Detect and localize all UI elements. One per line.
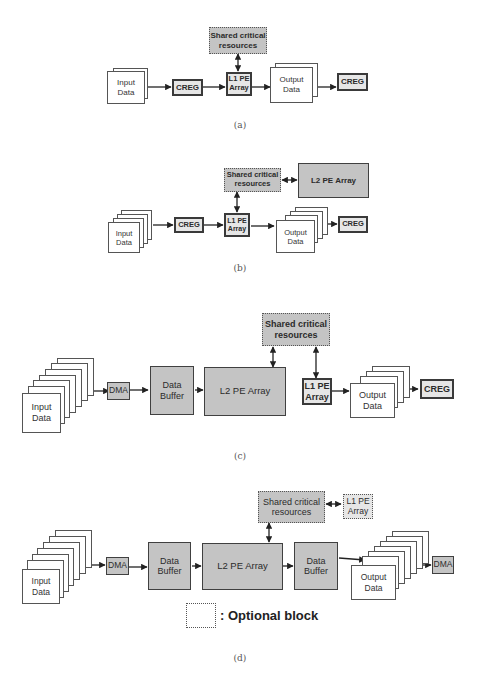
creg-output-block: CREG bbox=[337, 73, 368, 91]
dma-block: DMA bbox=[107, 382, 130, 400]
optional-block-legend-label: : Optional block bbox=[220, 608, 318, 623]
data-buffer-output-block: Data Buffer bbox=[294, 542, 338, 590]
l2-pe-array-block: L2 PE Array bbox=[204, 367, 286, 416]
data-buffer-input-block: Data Buffer bbox=[148, 542, 191, 590]
shared-critical-resources-block: Shared critical resources bbox=[209, 27, 267, 54]
input-data-label: Input Data bbox=[107, 71, 145, 104]
creg-input-block: CREG bbox=[174, 217, 204, 233]
creg-output-block: CREG bbox=[338, 216, 368, 233]
dma-output-block: DMA bbox=[432, 556, 454, 574]
l2-pe-array-block: L2 PE Array bbox=[202, 543, 283, 590]
l2-pe-array-block: L2 PE Array bbox=[298, 163, 369, 198]
shared-critical-resources-block: Shared critical resources bbox=[258, 491, 325, 523]
output-data-label: Output Data bbox=[351, 565, 396, 600]
output-data-label: Output Data bbox=[270, 67, 313, 103]
data-buffer-block: Data Buffer bbox=[150, 366, 194, 415]
dma-input-block: DMA bbox=[106, 557, 129, 575]
caption-b: (b) bbox=[220, 263, 260, 273]
caption-c: (c) bbox=[220, 451, 260, 461]
input-data-label: Input Data bbox=[22, 393, 61, 433]
l1-pe-array-block: L1 PE Array bbox=[226, 72, 252, 96]
l1-pe-array-block: L1 PE Array bbox=[224, 213, 250, 237]
input-data-label: Input Data bbox=[108, 222, 140, 253]
l1-pe-array-block: L1 PE Array bbox=[302, 378, 332, 405]
l1-pe-array-optional-block: L1 PE Array bbox=[343, 494, 373, 519]
caption-a: (a) bbox=[220, 120, 260, 130]
creg-block: CREG bbox=[420, 379, 454, 399]
optional-block-legend-swatch bbox=[186, 603, 216, 628]
input-data-label: Input Data bbox=[22, 569, 60, 604]
output-data-label: Output Data bbox=[350, 383, 395, 418]
shared-critical-resources-block: Shared critical resources bbox=[262, 313, 330, 346]
caption-d: (d) bbox=[220, 653, 260, 663]
output-data-label: Output Data bbox=[276, 220, 315, 253]
creg-input-block: CREG bbox=[172, 79, 203, 96]
shared-critical-resources-block: Shared critical resources bbox=[224, 168, 281, 192]
